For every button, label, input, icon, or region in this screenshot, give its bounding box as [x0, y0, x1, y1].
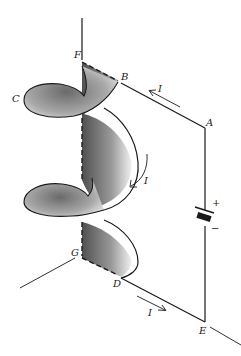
wire-b-a — [121, 83, 205, 128]
wire-d-e — [121, 278, 205, 322]
battery-positive-sign: + — [212, 197, 220, 208]
label-c: C — [12, 93, 20, 104]
label-a: A — [205, 117, 213, 128]
lead-e — [210, 327, 241, 345]
label-d: D — [112, 278, 121, 289]
current-arrow-top-icon — [149, 90, 180, 107]
label-g: G — [71, 247, 79, 258]
current-label-top: I — [157, 83, 163, 94]
label-e: E — [198, 325, 207, 336]
battery-negative-sign: − — [211, 223, 219, 234]
helix-lower-surface — [82, 222, 131, 277]
current-label-middle: I — [143, 175, 149, 186]
lead-g — [20, 258, 75, 288]
label-b: B — [120, 71, 128, 82]
helix-circuit-diagram: + − I I I F B A C G D E — [0, 0, 241, 356]
current-label-bottom: I — [147, 307, 153, 318]
battery-icon — [195, 207, 214, 222]
label-f: F — [73, 49, 82, 60]
